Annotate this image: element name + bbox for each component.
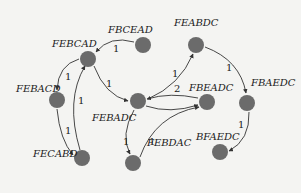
edge-febadc-to-feabdc [148, 54, 193, 99]
node-fbcead [135, 37, 151, 53]
node-bfaedc [212, 144, 228, 160]
node-fbeadc [199, 94, 215, 110]
nodes: FBCEADFEBCADFEABDCFEBACDFEBADCFBEADCFBAE… [15, 17, 296, 171]
edge-weight-label: 2 [174, 83, 180, 94]
node-label: FEBCAD [51, 38, 97, 49]
edge-weight-label: 1 [65, 71, 71, 82]
node-fbaedc [239, 95, 255, 111]
node-febadc [130, 93, 146, 109]
edge-weight-label: 1 [113, 43, 119, 54]
edge-weight-label: 1 [238, 119, 244, 130]
node-febdac [125, 155, 141, 171]
node-label: FBEADC [188, 82, 234, 93]
node-label: FBCEAD [107, 24, 153, 35]
edge-weight-label: 1 [123, 136, 129, 147]
edge-weight-label: 1 [226, 62, 232, 73]
edge-fecabd-to-febcad [74, 66, 85, 150]
node-label: FEABDC [173, 17, 219, 28]
node-label: FEBACD [15, 83, 60, 94]
edge-weight-label: 1 [78, 95, 84, 106]
node-label: FECABD [32, 148, 77, 159]
node-label: FEBADC [91, 112, 137, 123]
node-label: FEBDAC [146, 137, 192, 148]
node-febacd [49, 92, 65, 108]
state-transition-diagram: 11111111211 FBCEADFEBCADFEABDCFEBACDFEBA… [0, 0, 301, 193]
edge-febdac-to-fbeadc [140, 107, 199, 157]
node-feabdc [188, 37, 204, 53]
edge-weight-label: 1 [65, 125, 71, 136]
edge-weight-label: 1 [106, 78, 112, 89]
node-label: FBAEDC [250, 77, 296, 88]
edge-weight-label: 1 [172, 68, 178, 79]
node-febcad [80, 51, 96, 67]
node-label: BFAEDC [195, 131, 240, 142]
